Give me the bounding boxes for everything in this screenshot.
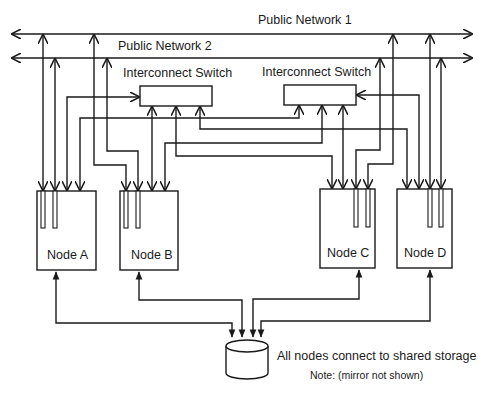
shared-storage: All nodes connect to shared storage Note… — [226, 340, 476, 381]
node-b: Node B — [120, 191, 178, 270]
node-d-nic-2 — [439, 189, 443, 227]
node-b-nic-2 — [136, 191, 140, 228]
interconnect-switch-right-box — [284, 85, 356, 105]
public-network-1: Public Network 1 — [12, 13, 472, 34]
node-c: Node C — [320, 189, 375, 268]
node-a-nic-2 — [53, 191, 57, 228]
node-a: Node A — [37, 191, 96, 270]
public-network-1-label: Public Network 1 — [258, 13, 352, 27]
node-d-nic-1 — [428, 189, 432, 227]
interconnect-switch-right: Interconnect Switch — [262, 65, 371, 105]
node-c-label: Node C — [327, 246, 369, 260]
node-d-label: Node D — [404, 246, 446, 260]
shared-storage-label: All nodes connect to shared storage — [277, 349, 476, 363]
node-b-label: Node B — [131, 248, 173, 262]
public-network-2-label: Public Network 2 — [118, 39, 212, 53]
node-c-nic-1 — [354, 189, 358, 227]
interconnect-switch-left: Interconnect Switch — [123, 66, 232, 106]
public-network-2: Public Network 2 — [12, 39, 472, 58]
interconnect-switch-left-label: Interconnect Switch — [123, 66, 232, 80]
node-a-nic-1 — [41, 191, 45, 228]
node-d: Node D — [397, 189, 452, 268]
interconnect-switch-left-box — [140, 86, 212, 106]
node-a-label: Node A — [47, 248, 89, 262]
node-b-nic-1 — [124, 191, 128, 228]
shared-storage-note: Note: (mirror not shown) — [310, 369, 423, 381]
cluster-architecture-diagram: Public Network 1 Public Network 2 Interc… — [0, 0, 491, 407]
interconnect-switch-right-label: Interconnect Switch — [262, 65, 371, 79]
node-c-nic-2 — [366, 189, 370, 227]
storage-connections — [56, 270, 430, 337]
database-cylinder-icon — [226, 340, 268, 379]
